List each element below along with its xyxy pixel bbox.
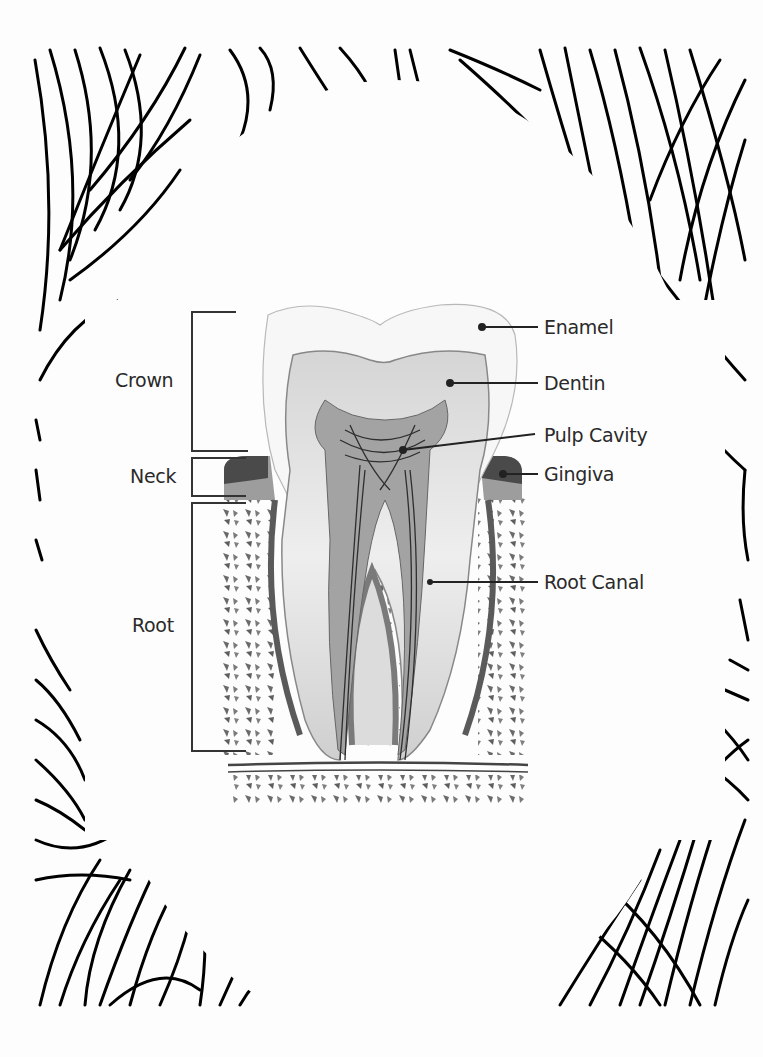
label-gingiva: Gingiva [544, 465, 614, 484]
label-root: Root [132, 616, 174, 635]
label-pulp-cavity: Pulp Cavity [544, 426, 647, 445]
label-enamel: Enamel [544, 318, 613, 337]
label-root-canal: Root Canal [544, 573, 644, 592]
label-dentin: Dentin [544, 374, 605, 393]
label-neck: Neck [130, 467, 176, 486]
label-crown: Crown [115, 371, 173, 390]
tooth-diagram [0, 0, 763, 1057]
coloring-page: Crown Neck Root Enamel Dentin Pulp Cavit… [0, 0, 763, 1057]
